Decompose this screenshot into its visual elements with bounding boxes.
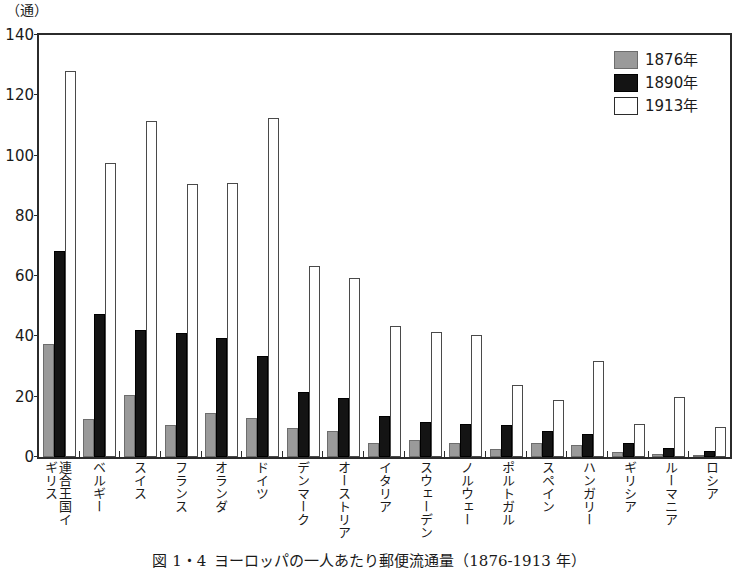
- y-axis-tick-label: 0: [24, 450, 34, 465]
- bar-1913年-連合王国イギリス: [65, 71, 76, 457]
- bar-1913年-ベルギー: [105, 163, 116, 457]
- bar-1876年-スペイン: [531, 443, 542, 457]
- legend-label: 1890年: [645, 76, 698, 91]
- bar-1890年-ハンガリー: [582, 434, 593, 457]
- x-axis-label-text: ルーマニア: [664, 461, 678, 526]
- x-axis-label-text: オーストリア: [337, 461, 351, 539]
- bar-group: [39, 35, 80, 457]
- figure-caption: 図 1・4ヨーロッパの一人あたり郵便流通量（1876-1913 年）: [0, 551, 738, 571]
- bar-1876年-イタリア: [368, 443, 379, 457]
- bar-1913年-スウェーデン: [431, 332, 442, 457]
- bar-1876年-ギリシア: [612, 452, 623, 457]
- x-axis-label-0: 連合王国イギリス: [37, 461, 78, 549]
- bar-group: [445, 35, 486, 457]
- x-axis-label-text: ロシア: [704, 461, 718, 500]
- x-axis-label-1: ベルギー: [78, 461, 119, 549]
- x-axis-label-text: フランス: [173, 461, 187, 513]
- x-axis-label-8: イタリア: [364, 461, 405, 549]
- bar-1890年-ロシア: [704, 451, 715, 457]
- bar-group: [364, 35, 405, 457]
- bar-1876年-フランス: [165, 425, 176, 457]
- caption-text: ヨーロッパの一人あたり郵便流通量（1876-1913 年）: [214, 552, 585, 570]
- bar-1890年-イタリア: [379, 416, 390, 457]
- bar-1876年-ベルギー: [83, 419, 94, 457]
- legend-label: 1876年: [645, 53, 698, 68]
- bar-group: [161, 35, 202, 457]
- x-axis-label-13: ハンガリー: [568, 461, 609, 549]
- bar-group: [405, 35, 446, 457]
- bar-1890年-フランス: [176, 333, 187, 457]
- x-axis-label-2: スイス: [119, 461, 160, 549]
- bar-1890年-ノルウェー: [460, 424, 471, 457]
- bar-1876年-ルーマニア: [652, 454, 663, 457]
- bar-1913年-ハンガリー: [593, 361, 604, 457]
- bar-group: [80, 35, 121, 457]
- bar-1913年-スイス: [146, 121, 157, 457]
- x-axis-label-text: ドイツ: [255, 461, 269, 500]
- y-axis-tick-label: 40: [15, 329, 34, 344]
- bar-1890年-オランダ: [216, 338, 227, 457]
- x-axis-label-text: ハンガリー: [582, 461, 596, 526]
- legend: 1876年1890年1913年: [614, 50, 698, 116]
- bar-1913年-オーストリア: [349, 278, 360, 457]
- bar-group: [323, 35, 364, 457]
- bar-1876年-デンマーク: [287, 428, 298, 457]
- x-axis-label-3: フランス: [160, 461, 201, 549]
- x-axis-label-4: オランダ: [201, 461, 242, 549]
- bar-1913年-オランダ: [227, 183, 238, 457]
- y-axis-tick-label: 100: [5, 148, 34, 163]
- x-axis-labels: 連合王国イギリスベルギースイスフランスオランダドイツデンマークオーストリアイタリ…: [37, 461, 732, 549]
- x-axis-label-9: スウェーデン: [405, 461, 446, 549]
- x-axis-label-16: ロシア: [691, 461, 732, 549]
- bar-1876年-スウェーデン: [409, 440, 420, 457]
- bar-1890年-オーストリア: [338, 398, 349, 457]
- y-axis-tick-label: 20: [15, 389, 34, 404]
- x-axis-label-14: ギリシア: [609, 461, 650, 549]
- bar-1876年-ドイツ: [246, 418, 257, 457]
- x-axis-label-text: イタリア: [377, 461, 391, 513]
- bar-1890年-スウェーデン: [420, 422, 431, 457]
- bar-1890年-ギリシア: [623, 443, 634, 457]
- x-axis-label-7: オーストリア: [323, 461, 364, 549]
- legend-item: 1876年: [614, 50, 698, 70]
- y-axis-unit-label: （通）: [6, 1, 48, 19]
- x-axis-label-text: スペイン: [541, 461, 555, 513]
- x-axis-label-text: 連合王国イギリス: [43, 461, 71, 537]
- y-axis-tick-label: 80: [15, 208, 34, 223]
- bar-1876年-オランダ: [205, 413, 216, 457]
- legend-item: 1890年: [614, 73, 698, 93]
- bar-1913年-スペイン: [553, 400, 564, 457]
- legend-label: 1913年: [645, 99, 698, 114]
- bar-1890年-ルーマニア: [663, 448, 674, 457]
- x-axis-label-5: ドイツ: [241, 461, 282, 549]
- x-axis-label-text: スイス: [132, 461, 146, 500]
- bar-1890年-デンマーク: [298, 392, 309, 457]
- x-axis-label-15: ルーマニア: [650, 461, 691, 549]
- legend-swatch-icon: [614, 51, 638, 69]
- figure-container: （通） 020406080100120140 連合王国イギリスベルギースイスフラ…: [0, 0, 738, 575]
- bar-1913年-ポルトガル: [512, 385, 523, 457]
- bar-1890年-ドイツ: [257, 356, 268, 457]
- x-axis-label-11: ポルトガル: [487, 461, 528, 549]
- y-axis-tick-label: 140: [5, 28, 34, 43]
- bar-1876年-連合王国イギリス: [43, 344, 54, 457]
- bar-1913年-ギリシア: [634, 424, 645, 457]
- bar-group: [527, 35, 568, 457]
- bar-1890年-ベルギー: [94, 314, 105, 457]
- bar-1890年-ポルトガル: [501, 425, 512, 457]
- bar-1913年-ロシア: [715, 427, 726, 457]
- legend-swatch-icon: [614, 97, 638, 115]
- x-axis-label-text: スウェーデン: [418, 461, 432, 539]
- bar-group: [120, 35, 161, 457]
- bar-1913年-ノルウェー: [471, 335, 482, 457]
- x-axis-label-text: デンマーク: [296, 461, 310, 526]
- bar-1913年-フランス: [187, 184, 198, 457]
- bar-1876年-ポルトガル: [490, 449, 501, 457]
- legend-swatch-icon: [614, 74, 638, 92]
- bar-1876年-スイス: [124, 395, 135, 457]
- bar-1913年-イタリア: [390, 326, 401, 457]
- bar-group: [567, 35, 608, 457]
- bar-1913年-ルーマニア: [674, 397, 685, 457]
- x-axis-label-text: ノルウェー: [459, 461, 473, 526]
- legend-item: 1913年: [614, 96, 698, 116]
